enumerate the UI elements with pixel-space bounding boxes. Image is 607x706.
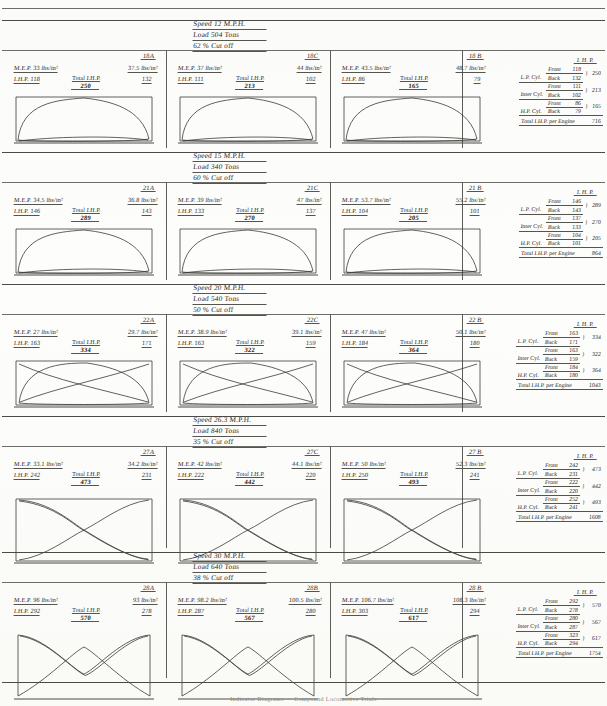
mep-back-label: 55.2 lbs/in²: [456, 196, 487, 205]
total-ihp-label: Total I.H.P. 334: [71, 339, 101, 355]
ihp-back-label: 79: [473, 75, 480, 84]
ihp-front-label: I.H.P. 287: [178, 607, 205, 616]
ihp-front-label: I.H.P. 86: [342, 75, 366, 84]
back-value: 143: [562, 206, 584, 214]
table-row: Inter Cyl. Front 111 } 213: [519, 82, 603, 90]
total-ihp-label: Total I.H.P. 289: [71, 207, 101, 223]
ihp-table-header: I. H. P.: [574, 589, 597, 596]
front-value: 111: [562, 82, 584, 90]
mep-back-label: 44 lbs/in²: [297, 64, 323, 73]
front-label: Front: [542, 462, 560, 470]
cylinder-name: L.P. Cyl.: [518, 66, 546, 82]
total-ihp-value: 567: [235, 614, 264, 622]
indicator-panel-22C[interactable]: 22C M.E.P. 38.9 lbs/in² 39.1 lbs/in² I.H…: [168, 316, 328, 412]
indicator-panel-21C[interactable]: 21C M.E.P. 39 lbs/in² 47 lbs/in² I.H.P. …: [168, 184, 328, 280]
section-load: Load 540 Tons: [192, 295, 267, 305]
speed-run-section-run-18: Speed 12 M.P.H. Load 504 Tons 62 % Cut o…: [0, 20, 607, 152]
total-ihp-caption: Total I.H.P.: [400, 339, 429, 346]
ihp-back-label: 231: [142, 471, 153, 480]
mep-front-label: M.E.P. 42 lbs/in²: [178, 460, 223, 469]
ihp-back-label: 280: [306, 607, 317, 616]
row-total: 165: [589, 99, 604, 116]
indicator-panel-28B[interactable]: 28B M.E.P. 98.2 lbs/in² 100.5 lbs/in² I.…: [168, 584, 328, 678]
cylinder-name: Inter Cyl.: [518, 214, 546, 231]
mep-back-label: 108.3 lbs/in²: [453, 596, 487, 605]
total-engine-value: 1754: [587, 648, 604, 657]
back-value: 101: [562, 239, 584, 247]
figure-number: 18 B: [467, 52, 484, 60]
row-total: 250: [589, 66, 604, 82]
front-value: 222: [559, 478, 581, 486]
indicator-panel-28 B[interactable]: 28 B M.E.P. 106.7 lbs/in² 108.3 lbs/in² …: [332, 584, 492, 678]
indicator-panel-18C[interactable]: 18C M.E.P. 37 lbs/in² 44 lbs/in² I.H.P. …: [168, 52, 328, 148]
row-total: 289: [589, 198, 604, 214]
section-subrule: [2, 314, 605, 315]
indicator-panel-21A[interactable]: 21A M.E.P. 34.5 lbs/in² 36.8 lbs/in² I.H…: [4, 184, 164, 280]
ihp-table-header: I. H. P.: [574, 321, 597, 328]
indicator-panel-22 B[interactable]: 22 B M.E.P. 47 lbs/in² 50.1 lbs/in² I.H.…: [332, 316, 492, 412]
section-speed: Speed 20 M.P.H.: [192, 284, 267, 294]
figure-number: 21A: [140, 184, 156, 192]
mep-front-label: M.E.P. 53.7 lbs/in²: [342, 196, 392, 205]
back-value: 159: [559, 355, 581, 363]
cylinder-name: Inter Cyl.: [515, 346, 543, 363]
indicator-card-diagram: [342, 358, 482, 408]
indicator-panel-28A[interactable]: 28A M.E.P. 96 lbs/in² 93 lbs/in² I.H.P. …: [4, 584, 164, 678]
total-ihp-caption: Total I.H.P.: [72, 207, 101, 214]
front-value: 163: [559, 330, 581, 338]
indicator-panel-21 B[interactable]: 21 B M.E.P. 53.7 lbs/in² 55.2 lbs/in² I.…: [332, 184, 492, 280]
section-load: Load 340 Tons: [192, 163, 267, 173]
total-ihp-caption: Total I.H.P.: [400, 207, 429, 214]
back-label: Back: [542, 606, 560, 614]
panel-divider-1: [166, 182, 167, 280]
row-total: 270: [589, 214, 604, 231]
table-row: L.P. Cyl. Front 242 } 473: [516, 462, 603, 470]
total-ihp-caption: Total I.H.P.: [236, 207, 265, 214]
indicator-panel-27A[interactable]: 27A M.E.P. 33.1 lbs/in² 34.2 lbs/in² I.H…: [4, 448, 164, 548]
front-value: 137: [562, 214, 584, 222]
figure-number: 28A: [140, 584, 156, 592]
ihp-front-label: I.H.P. 163: [14, 339, 41, 348]
table-total-row: Total I.H.P. per Engine 864: [519, 248, 603, 257]
cylinder-name: L.P. Cyl.: [518, 198, 546, 214]
indicator-panel-27 B[interactable]: 27 B M.E.P. 50 lbs/in² 52.3 lbs/in² I.H.…: [332, 448, 492, 548]
mep-front-label: M.E.P. 37 lbs/in²: [178, 64, 223, 73]
front-label: Front: [542, 346, 560, 354]
back-label: Back: [542, 623, 560, 631]
front-label: Front: [542, 478, 560, 486]
back-value: 294: [559, 639, 581, 647]
table-row: L.P. Cyl. Front 146 } 289: [519, 198, 603, 206]
figure-number: 27 B: [467, 448, 484, 456]
front-label: Front: [542, 614, 560, 622]
mep-front-label: M.E.P. 50 lbs/in²: [342, 460, 387, 469]
total-ihp-label: Total I.H.P. 364: [399, 339, 429, 355]
mep-front-label: M.E.P. 33 lbs/in²: [14, 64, 59, 73]
ihp-back-label: 294: [470, 607, 481, 616]
indicator-card-diagram: [342, 94, 482, 144]
ihp-front-label: I.H.P. 163: [178, 339, 205, 348]
indicator-panel-18 B[interactable]: 18 B M.E.P. 43.5 lbs/in² 48.7 lbs/in² I.…: [332, 52, 492, 148]
front-value: 146: [562, 198, 584, 206]
cylinder-name: H.P. Cyl.: [515, 631, 543, 648]
row-total: 493: [586, 495, 604, 512]
total-ihp-caption: Total I.H.P.: [400, 75, 429, 82]
sheet-bottom-rule: [2, 682, 605, 683]
speed-run-section-run-27: Speed 26.3 M.P.H. Load 840 Tons 35 % Cut…: [0, 416, 607, 552]
total-ihp-label: Total I.H.P. 165: [399, 75, 429, 91]
table-total-row: Total I.H.P. per Engine 1754: [516, 648, 603, 657]
total-ihp-label: Total I.H.P. 205: [399, 207, 429, 223]
back-value: 220: [559, 487, 581, 495]
row-total: 570: [586, 598, 603, 614]
indicator-panel-22A[interactable]: 22A M.E.P. 27 lbs/in² 29.7 lbs/in² I.H.P…: [4, 316, 164, 412]
indicator-panel-27C[interactable]: 27C M.E.P. 42 lbs/in² 44.1 lbs/in² I.H.P…: [168, 448, 328, 548]
front-label: Front: [542, 330, 560, 338]
total-ihp-caption: Total I.H.P.: [236, 339, 265, 346]
section-load: Load 640 Tons: [192, 563, 267, 573]
total-ihp-label: Total I.H.P. 570: [71, 607, 101, 623]
total-ihp-value: 205: [399, 214, 428, 222]
table-total-row: Total I.H.P. per Engine 1043: [516, 380, 603, 389]
indicator-panel-18A[interactable]: 18A M.E.P. 33 lbs/in² 37.5 lbs/in² I.H.P…: [4, 52, 164, 148]
front-value: 118: [562, 66, 584, 74]
back-label: Back: [545, 107, 563, 115]
mep-back-label: 44.1 lbs/in²: [292, 460, 323, 469]
